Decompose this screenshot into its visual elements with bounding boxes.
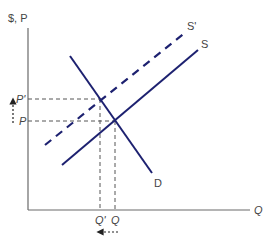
- supply-demand-diagram: $, P Q S S' D P' P Q' Q: [0, 0, 272, 240]
- supply-curve: [62, 50, 198, 165]
- supply-shifted-label: S': [187, 20, 196, 32]
- x-axis-label: Q: [254, 204, 263, 216]
- y-axis-label: $, P: [8, 12, 28, 24]
- p-prime-label: P': [16, 93, 26, 105]
- q-label: Q: [111, 214, 120, 226]
- demand-label: D: [154, 177, 162, 189]
- q-prime-label: Q': [95, 214, 107, 226]
- supply-label: S: [201, 38, 208, 50]
- p-label: P: [19, 115, 27, 127]
